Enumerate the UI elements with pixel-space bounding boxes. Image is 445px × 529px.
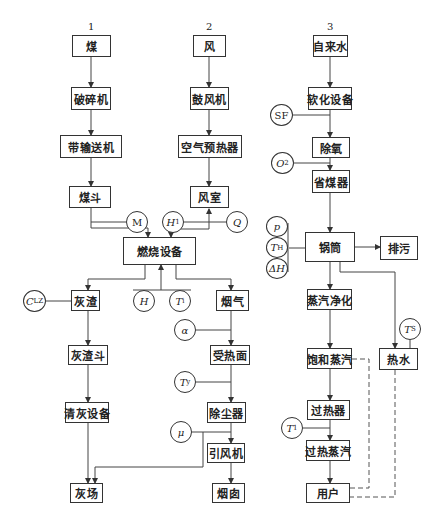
sensor-Ti: Ti [169, 290, 191, 312]
sensor-H1: H1 [162, 211, 184, 233]
node-ash-removal: 清灰设备 [65, 402, 109, 423]
node-saturated-steam: 饱和蒸汽 [307, 348, 352, 369]
sensor-p: p [266, 216, 288, 237]
node-tap-water: 自来水 [313, 35, 348, 57]
node-wind-chamber: 风室 [190, 186, 229, 208]
sensor-dH: ΔH [266, 258, 288, 279]
node-blowdown: 排污 [380, 236, 418, 260]
node-drum: 锅筒 [305, 232, 355, 262]
node-superheated-steam: 过热蒸汽 [306, 440, 350, 461]
node-ash-slag: 灰渣 [71, 290, 100, 311]
node-ash-yard: 灰场 [70, 483, 103, 503]
boiler-process-diagram: 1 2 3 煤 破碎机 带输送机 煤斗 风 鼓风机 空气预热器 风室 燃烧设备 … [0, 0, 445, 529]
node-coal: 煤 [72, 35, 111, 57]
sensor-M: M [126, 211, 148, 233]
node-blower: 鼓风机 [190, 87, 229, 110]
node-coal-hopper: 煤斗 [69, 186, 111, 208]
sensor-CLZ: CLZ [23, 290, 46, 312]
node-dust-collector: 除尘器 [207, 402, 246, 423]
column-number-3: 3 [327, 21, 333, 32]
column-number-2: 2 [206, 21, 212, 32]
node-air: 风 [193, 35, 226, 57]
sensor-O2: O2 [271, 152, 294, 174]
node-crusher: 破碎机 [71, 87, 111, 110]
sensor-H: H [133, 290, 155, 312]
sensor-Ty: Ty [174, 371, 196, 393]
node-user: 用户 [306, 483, 350, 503]
node-steam-purify: 蒸汽净化 [307, 289, 352, 310]
node-flue-gas: 烟气 [216, 290, 249, 311]
sensor-T1: T1 [281, 417, 303, 439]
node-economizer: 省煤器 [312, 170, 350, 193]
node-induced-fan: 引风机 [207, 443, 245, 463]
node-air-preheater: 空气预热器 [178, 135, 242, 158]
node-deaerator: 除氧 [312, 137, 350, 158]
node-heating-surface: 受热面 [210, 345, 250, 365]
node-softener: 软化设备 [308, 87, 352, 110]
sensor-mu: μ [170, 421, 192, 443]
node-combustion: 燃烧设备 [123, 237, 196, 265]
sensor-SF: SF [270, 104, 293, 126]
node-ash-hopper: 灰渣斗 [68, 345, 108, 365]
node-belt-conveyor: 带输送机 [60, 135, 122, 158]
sensor-TH: TH [266, 237, 288, 258]
node-chimney: 烟囱 [212, 483, 245, 503]
node-superheater: 过热器 [307, 400, 350, 420]
node-hot-water: 热水 [379, 348, 418, 370]
column-number-1: 1 [88, 21, 94, 32]
sensor-Q: Q [226, 211, 248, 233]
sensor-Ts: TS [399, 318, 421, 340]
sensor-alpha: α [174, 319, 196, 341]
